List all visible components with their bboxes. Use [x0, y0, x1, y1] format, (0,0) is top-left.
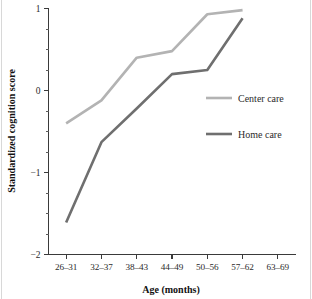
- x-tick-label: 63–69: [267, 262, 290, 272]
- x-axis-tick-labels: 26–3132–3738–4344–4950–5657–6263–69: [55, 262, 290, 272]
- line-chart: 10−1−2 26–3132–3738–4344–4950–5657–6263–…: [0, 0, 312, 299]
- x-tick-label: 26–31: [55, 262, 78, 272]
- y-tick-label: 1: [36, 4, 41, 14]
- x-axis-major-ticks: [66, 255, 278, 259]
- series-group: [66, 10, 242, 222]
- y-axis-tick-labels: 10−1−2: [30, 4, 40, 260]
- chart-figure: 10−1−2 26–3132–3738–4344–4950–5657–6263–…: [0, 0, 312, 299]
- legend-label: Home care: [238, 129, 282, 140]
- y-axis-title: Standardized cognition score: [6, 69, 17, 193]
- y-tick-label: −1: [30, 168, 40, 178]
- y-tick-label: 0: [36, 86, 41, 96]
- x-tick-label: 32–37: [90, 262, 113, 272]
- series-line-center-care: [66, 10, 242, 123]
- legend-label: Center care: [238, 93, 284, 104]
- x-tick-label: 44–49: [161, 262, 184, 272]
- y-tick-label: −2: [30, 250, 40, 260]
- x-tick-label: 50–56: [196, 262, 219, 272]
- chart-legend: Center careHome care: [206, 93, 284, 140]
- x-axis-title: Age (months): [142, 284, 200, 296]
- x-tick-label: 38–43: [125, 262, 148, 272]
- series-line-home-care: [66, 18, 242, 222]
- x-tick-label: 57–62: [231, 262, 254, 272]
